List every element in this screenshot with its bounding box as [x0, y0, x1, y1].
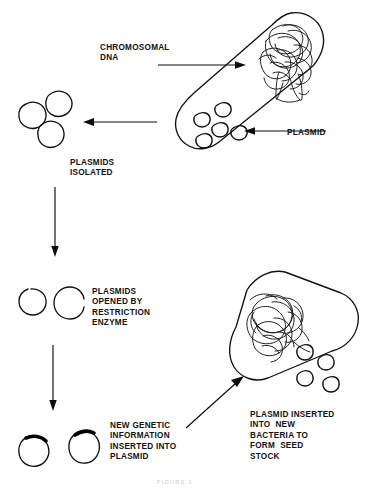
chromosomal-dna-strand-d [299, 91, 309, 95]
plasmid-diagram: CHROMOSOMAL DNA PLASMID PLASMIDS ISOLATE… [0, 0, 367, 490]
recombinant-plasmid [69, 431, 100, 463]
bacterial-plasmid [231, 126, 247, 140]
isolated-plasmid [46, 91, 72, 116]
bacterial-plasmid [215, 103, 231, 117]
chromosomal-dna-strand-c [277, 99, 300, 102]
bacterial-plasmid [297, 345, 313, 360]
plasmids-isolated-label: PLASMIDS ISOLATED [70, 158, 114, 179]
new-genetic-information-label: NEW GENETIC INFORMATION INSERTED INTO PL… [110, 421, 176, 463]
transformation-arrow [186, 376, 244, 428]
insertion-arrow [49, 345, 56, 411]
bacterial-plasmid [212, 123, 228, 137]
opened-plasmid [19, 289, 46, 315]
bacterial-plasmid [196, 134, 212, 148]
recipient-chromosomal-dna [247, 294, 303, 362]
plasmid-label: PLASMID [287, 128, 326, 138]
chromosomal-dna-label: CHROMOSOMAL DNA [100, 43, 170, 64]
chromosomal-dna-pointer [158, 61, 246, 68]
isolated-plasmids [19, 91, 72, 147]
opened-plasmid [54, 287, 84, 319]
plasmids-opened-label: PLASMIDS OPENED BY RESTRICTION ENZYME [92, 287, 150, 329]
restriction-arrow [51, 187, 58, 257]
recombinant-plasmids [19, 431, 100, 466]
recipient-bacterium [230, 271, 359, 392]
insert-dna-segment [75, 431, 94, 435]
opened-plasmids [19, 287, 84, 319]
figure-caption: FIGURE 1 [157, 479, 193, 485]
chromosomal-dna-tangle [259, 25, 312, 90]
bacterial-plasmid [323, 377, 339, 392]
plasmid-inserted-label: PLASMID INSERTED INTO NEW BACTERIA TO FO… [250, 410, 335, 462]
isolation-arrow [83, 118, 157, 126]
bacterial-plasmid [318, 355, 334, 370]
recipient-bacterium-outline [230, 271, 359, 380]
insert-dna-segment [26, 436, 46, 441]
isolated-plasmid [38, 121, 64, 147]
bacterial-plasmid [194, 113, 210, 127]
bacterial-plasmid [297, 371, 313, 386]
